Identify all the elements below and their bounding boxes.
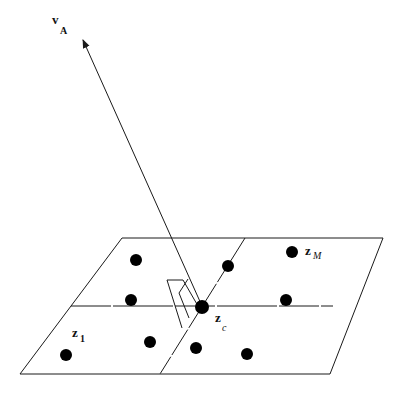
label-vA-sub: A — [60, 25, 68, 36]
data-point — [130, 254, 142, 266]
vector-plane-diagram: v A z c z M z 1 — [0, 0, 404, 396]
label-zM-sub: M — [312, 250, 322, 261]
data-point-zc — [195, 300, 209, 314]
label-zM-main: z — [305, 243, 311, 258]
label-zc: z c — [215, 310, 227, 333]
data-point — [125, 294, 137, 306]
data-point — [190, 342, 202, 354]
label-z1-sub: 1 — [80, 333, 85, 344]
right-angle-marker-inner — [179, 279, 189, 318]
label-zc-main: z — [215, 310, 221, 325]
data-point-z1 — [60, 349, 72, 361]
data-point — [241, 348, 253, 360]
data-point-zM — [286, 246, 298, 258]
label-zc-sub: c — [222, 322, 227, 333]
label-z1-main: z — [72, 325, 78, 340]
data-point — [144, 336, 156, 348]
label-zM: z M — [305, 243, 322, 261]
label-z1: z 1 — [72, 325, 85, 344]
data-point — [280, 294, 292, 306]
data-point — [222, 260, 234, 272]
label-vA-main: v — [52, 12, 59, 27]
label-vA: v A — [52, 12, 68, 36]
